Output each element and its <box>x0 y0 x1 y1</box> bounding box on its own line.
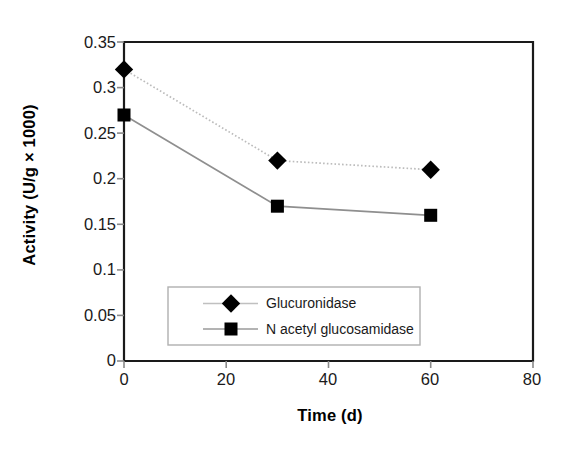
data-point-marker <box>115 60 133 78</box>
plot-area <box>0 0 575 453</box>
series-glucuronidase <box>115 60 440 179</box>
chart-figure: Activity (U/g × 1000) Time (d) 0.35 0.3 … <box>0 0 575 453</box>
data-point-marker <box>422 161 440 179</box>
data-point-marker <box>424 209 437 222</box>
data-point-marker <box>268 151 286 169</box>
legend-label-n-acetyl-glucosamidase: N acetyl glucosamidase <box>266 321 414 337</box>
data-point-marker <box>118 109 131 122</box>
data-point-marker <box>271 200 284 213</box>
square-marker-icon <box>225 323 238 336</box>
legend-label-glucuronidase: Glucuronidase <box>266 295 356 311</box>
